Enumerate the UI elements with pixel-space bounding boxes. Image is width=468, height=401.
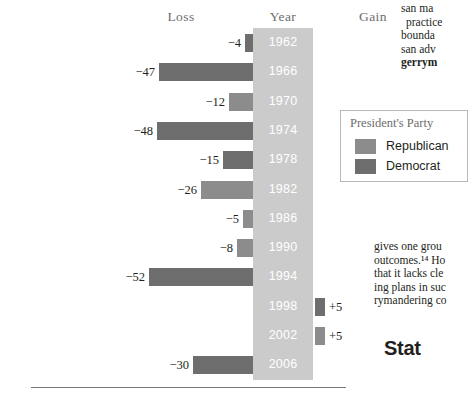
bar-loss	[237, 239, 253, 257]
bar-value-label: −48	[0, 122, 153, 140]
bar-loss	[243, 210, 253, 228]
year-label: 2002	[253, 326, 313, 345]
bar-row: −121970	[0, 87, 360, 116]
year-label: 1966	[253, 62, 313, 81]
year-label: 1982	[253, 180, 313, 199]
bar-value-label: −8	[0, 239, 233, 257]
year-label: 1974	[253, 121, 313, 140]
bar-loss	[201, 181, 253, 199]
legend-label-republican: Republican	[386, 138, 449, 155]
bar-chart-plot: −41962−471966−121970−481974−151978−26198…	[0, 28, 360, 380]
legend-box: President's Party Republican Democrat	[340, 110, 468, 182]
bar-loss	[223, 151, 253, 169]
page-text-line: san adv	[401, 43, 442, 57]
column-header-gain: Gain	[350, 9, 396, 25]
bar-row: +52002	[0, 321, 360, 350]
year-label: 1978	[253, 150, 313, 169]
page-text-line: rymandering co	[374, 294, 447, 308]
bar-loss	[193, 356, 253, 374]
bar-loss	[157, 122, 253, 140]
bar-loss	[229, 93, 253, 111]
year-label: 1990	[253, 238, 313, 257]
page-text-line: that it lacks cle	[374, 267, 447, 281]
legend-label-democrat: Democrat	[386, 158, 440, 175]
bar-row: −471966	[0, 57, 360, 86]
year-label: 1986	[253, 209, 313, 228]
page-text-line: outcomes.¹⁴ Ho	[374, 254, 447, 268]
legend-title: President's Party	[350, 116, 433, 131]
bar-loss	[245, 34, 253, 52]
bar-value-label: −5	[0, 210, 239, 228]
bar-value-label: −52	[0, 268, 145, 286]
page-text-line: ing plans in suc	[374, 281, 447, 295]
page-text-top: san mapracticeboundasan advgerrym	[401, 2, 442, 70]
bar-row: +51998	[0, 292, 360, 321]
bar-value-label: −15	[0, 151, 219, 169]
bar-row: −521994	[0, 262, 360, 291]
bar-row: −481974	[0, 116, 360, 145]
year-label: 1998	[253, 297, 313, 316]
column-header-loss: Loss	[158, 9, 204, 25]
bar-gain	[315, 298, 325, 316]
bar-value-label: −4	[0, 34, 241, 52]
page-text-line: practice	[401, 16, 442, 30]
section-heading: Stat	[384, 337, 421, 360]
bar-value-label: +5	[329, 298, 369, 316]
page-text-middle: gives one grououtcomes.¹⁴ Hothat it lack…	[374, 240, 447, 308]
bar-row: −302006	[0, 350, 360, 379]
bar-value-label: −47	[0, 63, 155, 81]
bar-value-label: −30	[0, 356, 189, 374]
bar-row: −51986	[0, 204, 360, 233]
page-text-line: bounda	[401, 29, 442, 43]
bar-gain	[315, 327, 325, 345]
year-label: 1970	[253, 92, 313, 111]
legend-swatch-democrat	[355, 159, 376, 174]
page-text-line: san ma	[401, 2, 442, 16]
column-header-year: Year	[259, 9, 307, 25]
bar-row: −151978	[0, 145, 360, 174]
page-text-line: gives one grou	[374, 240, 447, 254]
bar-row: −41962	[0, 28, 360, 57]
bar-row: −261982	[0, 175, 360, 204]
bar-row: −81990	[0, 233, 360, 262]
bar-loss	[159, 63, 253, 81]
bar-value-label: −26	[0, 181, 197, 199]
bottom-divider-rule	[31, 387, 346, 388]
year-label: 1962	[253, 33, 313, 52]
bar-value-label: −12	[0, 93, 225, 111]
year-label: 2006	[253, 355, 313, 374]
legend-swatch-republican	[355, 139, 376, 154]
year-label: 1994	[253, 267, 313, 286]
bar-value-label: +5	[329, 327, 369, 345]
page-text-line: gerrym	[401, 56, 442, 70]
bar-loss	[149, 268, 253, 286]
